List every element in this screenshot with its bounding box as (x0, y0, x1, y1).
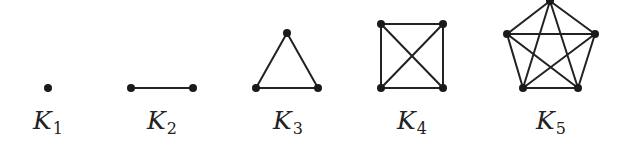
k5-edge (523, 34, 595, 88)
label-letter: K (397, 106, 416, 135)
label-subscript: 4 (417, 119, 427, 138)
k5-vertex (503, 30, 511, 38)
k4-vertex (377, 20, 385, 28)
k5-edge (550, 1, 595, 34)
k2-vertex (127, 84, 135, 92)
k5-vertex (519, 84, 527, 92)
graph-label-k5: K5 (536, 108, 566, 137)
k3-edge (256, 33, 287, 88)
label-subscript: 2 (167, 119, 177, 138)
k4-vertex (439, 20, 447, 28)
k3-vertex (283, 29, 291, 37)
label-subscript: 3 (293, 119, 303, 138)
k1-vertex (44, 84, 52, 92)
label-letter: K (536, 106, 555, 135)
k5-vertex (574, 84, 582, 92)
edges-layer (131, 1, 595, 88)
k5-edge (507, 34, 578, 88)
graph-label-k1: K1 (33, 108, 63, 137)
k4-vertex (377, 84, 385, 92)
k5-edge (523, 1, 550, 88)
label-letter: K (33, 106, 52, 135)
label-letter: K (273, 106, 292, 135)
graph-label-k4: K4 (397, 108, 427, 137)
k3-vertex (252, 84, 260, 92)
k3-edge (287, 33, 318, 88)
graph-label-k3: K3 (273, 108, 303, 137)
k5-edge (550, 1, 578, 88)
label-subscript: 5 (556, 119, 566, 138)
k4-vertex (439, 84, 447, 92)
label-subscript: 1 (53, 119, 63, 138)
complete-graphs-diagram (0, 0, 629, 146)
k3-vertex (314, 84, 322, 92)
k5-edge (507, 1, 550, 34)
k5-edge (507, 34, 523, 88)
vertices-layer (44, 0, 599, 92)
graph-label-k2: K2 (147, 108, 177, 137)
k5-vertex (591, 30, 599, 38)
label-letter: K (147, 106, 166, 135)
k5-edge (578, 34, 595, 88)
k2-vertex (189, 84, 197, 92)
